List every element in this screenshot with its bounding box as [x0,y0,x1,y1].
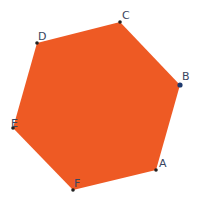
vertex-f-label: F [74,177,80,190]
vertex-c-label: C [122,9,130,22]
hexagon-shape [13,22,180,190]
hexagon-diagram: A B C D E F [0,0,201,199]
vertex-e-label: E [11,117,18,130]
vertex-d-label: D [38,30,46,43]
vertex-a-point [154,168,158,172]
vertex-a-label: A [159,157,167,170]
vertex-b-point [177,82,182,87]
vertex-b-label: B [182,70,190,83]
